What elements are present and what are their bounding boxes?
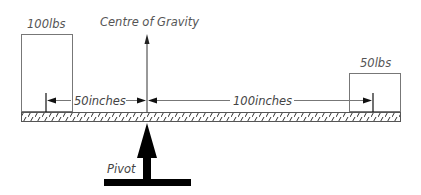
pivot-arrow xyxy=(137,123,157,181)
right-distance-label: 100inches xyxy=(233,94,292,108)
lever-diagram: 100lbs 50lbs Centre of Gravity 50inches … xyxy=(0,0,421,195)
left-dimension-arrow-left xyxy=(47,98,56,104)
beam xyxy=(22,113,401,122)
left-weight-box xyxy=(22,35,73,112)
left-dimension-arrow-right xyxy=(137,98,146,104)
centre-of-gravity-arrowhead xyxy=(145,34,150,44)
right-dimension-arrow-left xyxy=(148,98,157,104)
left-weight-label: 100lbs xyxy=(27,17,65,31)
pivot-label: Pivot xyxy=(107,162,136,176)
left-distance-label: 50inches xyxy=(74,94,126,108)
right-weight-box xyxy=(350,74,401,112)
centre-of-gravity-label: Centre of Gravity xyxy=(100,15,199,29)
pivot-base xyxy=(104,179,191,186)
right-weight-label: 50lbs xyxy=(360,56,391,70)
right-dimension-arrow-right xyxy=(363,98,372,104)
